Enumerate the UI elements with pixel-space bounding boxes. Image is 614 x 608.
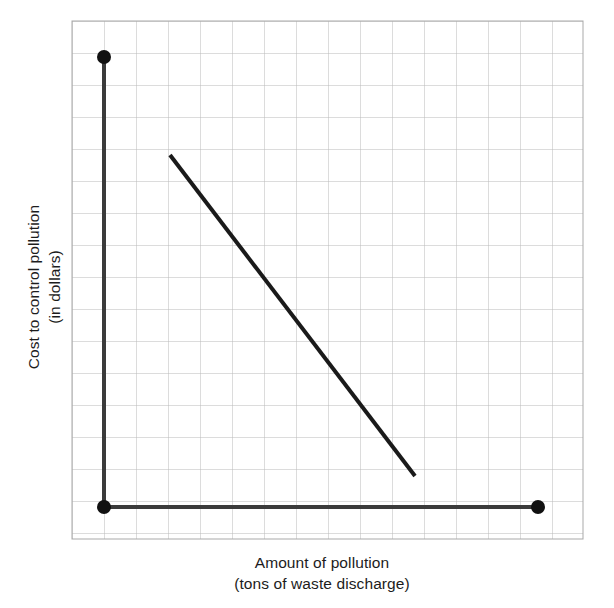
- marker-x-axis-right: [531, 500, 545, 514]
- y-axis-label-primary: Cost to control pollution: [23, 27, 44, 547]
- plot-area: [0, 0, 614, 608]
- pollution-cost-chart: Amount of pollution (tons of waste disch…: [0, 0, 614, 608]
- y-axis-label: Cost to control pollution (in dollars): [23, 27, 65, 547]
- x-axis-label-secondary: (tons of waste discharge): [104, 573, 540, 594]
- marker-y-axis-top: [97, 50, 111, 64]
- marker-origin: [97, 500, 111, 514]
- x-axis-label-primary: Amount of pollution: [104, 552, 540, 573]
- y-axis-label-container: Cost to control pollution (in dollars): [23, 27, 69, 547]
- y-axis-label-secondary: (in dollars): [44, 27, 65, 547]
- grid-lines: [72, 21, 583, 539]
- x-axis-label: Amount of pollution (tons of waste disch…: [104, 552, 540, 594]
